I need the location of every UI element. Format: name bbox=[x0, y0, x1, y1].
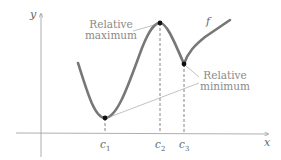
x-axis bbox=[16, 133, 268, 134]
max-point-c2 bbox=[158, 21, 163, 26]
function-label: f bbox=[206, 16, 210, 27]
tick-c2: c2 bbox=[155, 139, 165, 155]
x-axis-label: x bbox=[264, 137, 270, 148]
min-point-c1 bbox=[103, 116, 108, 121]
y-axis-label: y bbox=[30, 9, 36, 20]
tick-c1: c1 bbox=[100, 139, 110, 155]
extrema-diagram: y x f Relative maximum Relative minimum … bbox=[0, 0, 281, 160]
min-label-line2: minimum bbox=[198, 81, 252, 92]
relative-maximum-label: Relative maximum bbox=[84, 19, 138, 41]
relative-minimum-label: Relative minimum bbox=[198, 70, 252, 92]
tick-c3: c3 bbox=[179, 139, 189, 155]
max-label-line2: maximum bbox=[84, 30, 138, 41]
min-point-c3 bbox=[182, 62, 187, 67]
